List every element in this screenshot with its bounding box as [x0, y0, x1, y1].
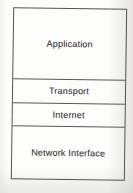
layer-network-interface-label: Network Interface: [31, 148, 105, 158]
layer-network-interface: Network Interface: [12, 125, 125, 180]
layer-internet: Internet: [13, 102, 125, 127]
layer-transport: Transport: [13, 78, 125, 104]
layer-transport-label: Transport: [49, 87, 89, 97]
layer-internet-label: Internet: [53, 110, 85, 119]
layer-application-label: Application: [47, 39, 93, 49]
protocol-stack-diagram: Application Transport Internet Network I…: [11, 7, 127, 181]
layer-application: Application: [13, 8, 126, 80]
